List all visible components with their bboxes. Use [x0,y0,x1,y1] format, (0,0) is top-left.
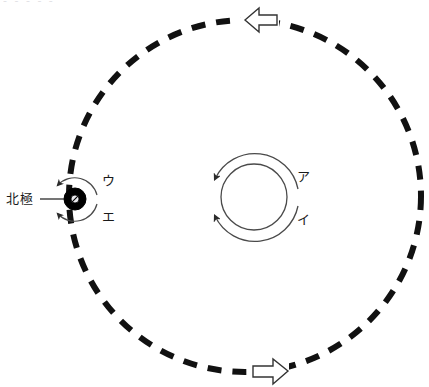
orbit-direction-arrow-top [241,8,279,32]
label-north-pole: 北極 [6,192,33,205]
label-sun-rotation-upper: ア [297,170,310,183]
label-earth-rotation-upper: ウ [102,174,115,187]
orbit-direction-arrow-bottom [249,359,289,384]
astronomy-diagram [0,0,429,387]
sun-body [221,164,287,230]
sun-rotation-arc-lower [215,206,298,241]
figure-canvas: - - - - - [0,0,429,387]
label-earth-rotation-lower: エ [102,210,115,223]
label-sun-rotation-lower: イ [297,213,310,226]
sun-rotation-arc-upper [215,154,298,189]
orbit-path [69,20,421,372]
